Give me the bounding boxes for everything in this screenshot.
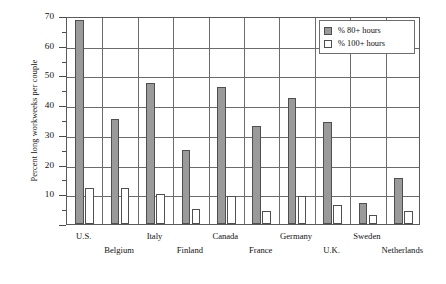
bar (298, 196, 307, 224)
legend-swatch-icon (324, 40, 332, 48)
bar (323, 122, 332, 225)
y-tick-major (59, 195, 66, 196)
y-tick-major (59, 17, 66, 18)
y-tick-label: 10 (14, 190, 54, 199)
y-tick-label: 30 (14, 131, 54, 140)
gridline-horizontal (67, 137, 419, 138)
x-tick-label: France (249, 245, 272, 255)
legend-swatch-icon (324, 27, 332, 35)
gridline-horizontal (67, 107, 419, 108)
legend-item: % 100+ hours (324, 37, 410, 50)
y-tick-label: 40 (14, 101, 54, 110)
y-tick-label: 50 (14, 71, 54, 80)
chart-legend: % 80+ hours % 100+ hours (319, 20, 415, 54)
x-tick-label: Germany (280, 231, 312, 241)
bar (121, 188, 130, 224)
x-tick-label: U.S. (76, 231, 91, 241)
y-tick-label: 20 (14, 161, 54, 170)
x-tick-label: Canada (212, 231, 238, 241)
bar (182, 150, 191, 224)
gridline-horizontal (67, 196, 419, 197)
bar (252, 126, 261, 224)
gridline-vertical (138, 18, 139, 224)
bar (288, 98, 297, 224)
bar (217, 87, 226, 224)
gridline-vertical (209, 18, 210, 224)
bar (359, 203, 368, 224)
y-tick-label: 70 (14, 12, 54, 21)
x-tick-label: Belgium (104, 245, 134, 255)
x-tick-label: U.K. (323, 245, 340, 255)
legend-label: % 80+ hours (338, 26, 381, 35)
y-tick-label: 60 (14, 42, 54, 51)
legend-item: % 80+ hours (324, 24, 410, 37)
gridline-vertical (315, 18, 316, 224)
x-tick-label: Finland (177, 245, 203, 255)
bar (369, 215, 378, 224)
gridline-vertical (244, 18, 245, 224)
bar (262, 211, 271, 224)
bar (146, 83, 155, 224)
bar (192, 209, 201, 224)
x-tick-label: Netherlands (382, 245, 424, 255)
bar (404, 211, 413, 224)
y-tick-major (59, 136, 66, 137)
bar (156, 194, 165, 224)
legend-label: % 100+ hours (338, 39, 385, 48)
x-tick-label: Sweden (353, 231, 380, 241)
gridline-horizontal (67, 167, 419, 168)
bar (394, 178, 403, 224)
gridline-vertical (279, 18, 280, 224)
bar (85, 188, 94, 224)
x-tick-label: Italy (147, 231, 163, 241)
gridline-vertical (173, 18, 174, 224)
gridline-horizontal (67, 77, 419, 78)
y-tick-major (59, 225, 66, 226)
bar (333, 205, 342, 224)
bar (75, 20, 84, 224)
bar (227, 196, 236, 224)
y-tick-major (59, 76, 66, 77)
gridline-vertical (102, 18, 103, 224)
bar-chart: Percent long workweeks per couple 102030… (0, 0, 446, 284)
y-tick-major (59, 47, 66, 48)
y-tick-major (59, 106, 66, 107)
bar (111, 119, 120, 224)
y-tick-major (59, 166, 66, 167)
